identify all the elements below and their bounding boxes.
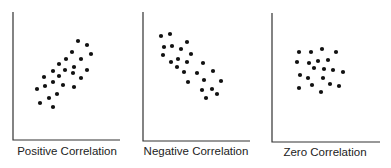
- data-point: [85, 68, 89, 72]
- data-point: [64, 57, 68, 61]
- data-point: [186, 80, 190, 84]
- data-point: [51, 80, 55, 84]
- points-zero: [295, 47, 345, 94]
- points-negative: [159, 32, 223, 100]
- label-negative: Negative Correlation: [144, 145, 249, 157]
- data-point: [79, 76, 83, 80]
- data-point: [57, 74, 61, 78]
- data-point: [326, 58, 330, 62]
- data-point: [79, 57, 83, 61]
- data-point: [185, 40, 189, 44]
- axes-zero: [272, 13, 380, 142]
- label-zero: Zero Correlation: [283, 146, 366, 158]
- data-point: [42, 75, 46, 79]
- data-point: [168, 32, 172, 36]
- data-point: [322, 67, 326, 71]
- label-positive: Positive Correlation: [17, 145, 117, 157]
- data-point: [306, 76, 310, 80]
- plot-positive-correlation: Positive Correlation: [13, 12, 120, 157]
- data-point: [70, 50, 74, 54]
- data-point: [297, 86, 301, 90]
- data-point: [312, 66, 316, 70]
- data-point: [319, 90, 323, 94]
- points-positive: [35, 39, 93, 109]
- plot-negative-correlation: Negative Correlation: [143, 12, 250, 157]
- data-point: [72, 85, 76, 89]
- data-point: [57, 62, 61, 66]
- data-point: [176, 57, 180, 61]
- data-point: [211, 69, 215, 73]
- data-point: [307, 61, 311, 65]
- data-point: [72, 65, 76, 69]
- correlation-figure: Positive Correlation Negative Correlatio…: [0, 0, 391, 168]
- data-point: [295, 60, 299, 64]
- data-point: [309, 50, 313, 54]
- data-point: [334, 50, 338, 54]
- data-point: [61, 83, 65, 87]
- data-point: [38, 101, 42, 105]
- data-point: [162, 45, 166, 49]
- data-point: [71, 71, 75, 75]
- data-point: [179, 47, 183, 51]
- data-point: [204, 96, 208, 100]
- axes-positive: [13, 12, 120, 140]
- data-point: [297, 50, 301, 54]
- data-point: [200, 88, 204, 92]
- data-point: [63, 68, 67, 72]
- data-point: [316, 59, 320, 63]
- data-point: [328, 82, 332, 86]
- data-point: [43, 84, 47, 88]
- data-point: [321, 76, 325, 80]
- data-point: [85, 43, 89, 47]
- data-point: [189, 52, 193, 56]
- data-point: [161, 53, 165, 57]
- data-point: [202, 78, 206, 82]
- data-point: [76, 39, 80, 43]
- data-point: [219, 79, 223, 83]
- data-point: [298, 73, 302, 77]
- data-point: [51, 69, 55, 73]
- data-point: [169, 60, 173, 64]
- data-point: [182, 70, 186, 74]
- data-point: [35, 87, 39, 91]
- plot-zero-correlation: Zero Correlation: [272, 13, 380, 158]
- data-point: [89, 52, 93, 56]
- data-point: [195, 71, 199, 75]
- data-point: [55, 92, 59, 96]
- data-point: [201, 61, 205, 65]
- axes-negative: [143, 12, 250, 141]
- data-point: [159, 34, 163, 38]
- data-point: [185, 60, 189, 64]
- data-point: [320, 47, 324, 51]
- data-point: [337, 84, 341, 88]
- data-point: [170, 44, 174, 48]
- data-point: [215, 92, 219, 96]
- data-point: [331, 68, 335, 72]
- data-point: [341, 70, 345, 74]
- data-point: [210, 87, 214, 91]
- data-point: [175, 65, 179, 69]
- data-point: [310, 83, 314, 87]
- data-point: [47, 96, 51, 100]
- data-point: [51, 105, 55, 109]
